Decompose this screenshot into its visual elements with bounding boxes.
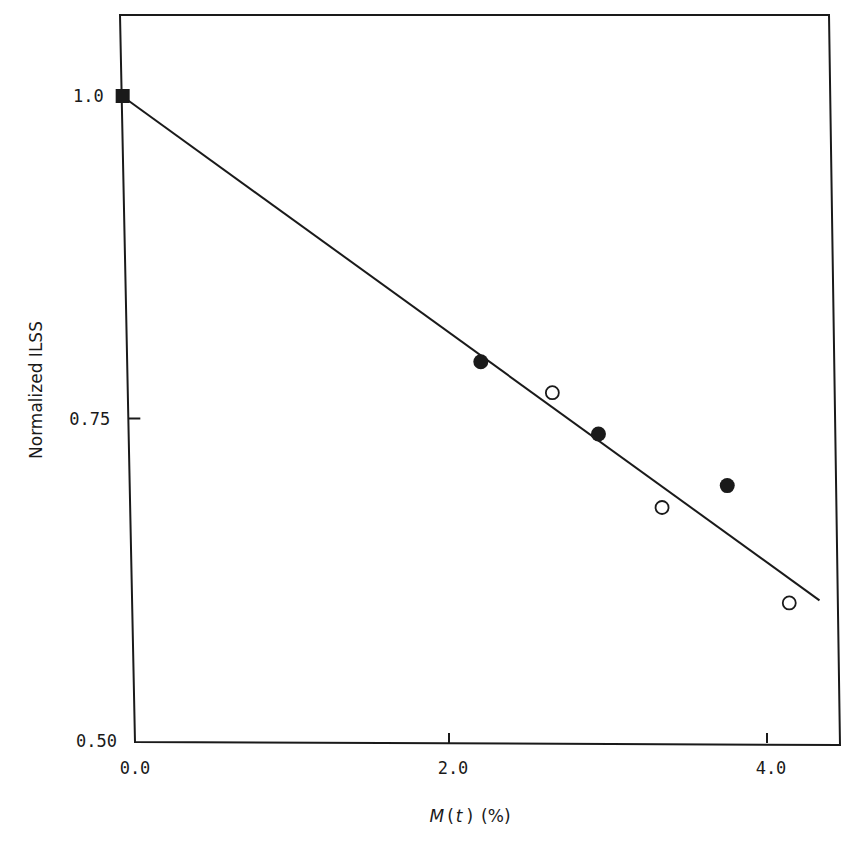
y-axis-ticks: 1.00.750.50 [69, 86, 140, 751]
filled-circle-marker [720, 478, 735, 493]
fit-line [122, 96, 819, 600]
y-tick-label: 0.50 [76, 731, 117, 751]
x-axis-title-unit: (%) [481, 806, 510, 826]
filled-circle-marker [591, 426, 606, 441]
y-tick-label: 0.75 [69, 409, 110, 429]
filled-circle-marker [473, 354, 488, 369]
y-axis-title: Normalized ILSS [26, 321, 46, 459]
chart: 1.00.750.50 0.02.04.0 Normalized ILSS M(… [0, 0, 850, 842]
x-axis-title-open: ( [447, 806, 454, 826]
x-axis-ticks: 0.02.04.0 [120, 733, 787, 778]
data-markers [116, 89, 796, 609]
square-marker [116, 89, 130, 103]
x-axis-title: M(t)(%) [429, 806, 510, 826]
x-axis-title-arg: t [456, 806, 464, 826]
open-circle-marker [783, 596, 796, 609]
open-circle-marker [656, 501, 669, 514]
plot-frame [120, 15, 840, 745]
open-circle-marker [546, 386, 559, 399]
x-axis-title-close: ) [466, 806, 473, 826]
y-tick-label: 1.0 [73, 86, 104, 106]
x-tick-label: 0.0 [120, 758, 151, 778]
x-tick-label: 4.0 [756, 758, 787, 778]
x-axis-title-var: M [429, 806, 444, 826]
x-tick-label: 2.0 [438, 758, 469, 778]
